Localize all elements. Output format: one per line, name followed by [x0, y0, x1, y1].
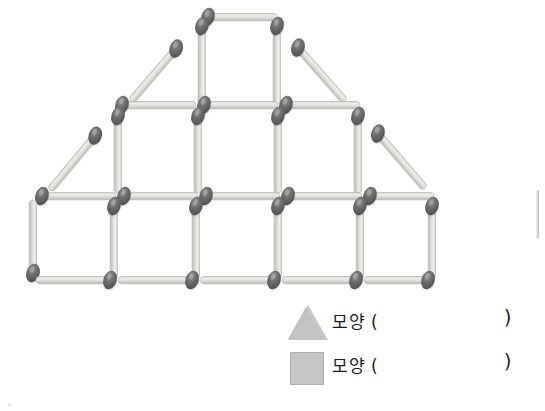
- legend: 모양 ( ) 모양 ( ): [288, 303, 538, 391]
- matchstick: [196, 185, 280, 208]
- matchstick: [104, 195, 124, 280]
- matches-layer: [23, 6, 442, 292]
- triangle-shape-swatch: [288, 305, 328, 341]
- matchstick: [361, 118, 434, 197]
- matchstick: [282, 32, 355, 110]
- scan-speck: [8, 403, 11, 406]
- legend-label-square: 모양 (: [332, 352, 378, 377]
- matchstick: [186, 195, 206, 280]
- matchstick: [188, 105, 208, 194]
- matchstick: [198, 6, 277, 29]
- scan-edge-artifact: [536, 190, 539, 238]
- matchstick: [32, 185, 116, 208]
- matchstick: [348, 105, 368, 194]
- matchstick: [124, 33, 192, 108]
- matchstick: [23, 200, 43, 286]
- matchstick: [108, 105, 128, 194]
- matchstick: [350, 195, 370, 280]
- matchstick: [194, 94, 278, 117]
- matchstick: [278, 185, 362, 208]
- matchstick: [200, 269, 284, 292]
- legend-row-triangle: 모양 ( ): [288, 303, 538, 347]
- square-shape-swatch: [288, 349, 328, 385]
- matchstick: [36, 269, 120, 292]
- matchstick: [192, 15, 212, 105]
- matchstick: [364, 269, 438, 292]
- matchstick: [43, 121, 111, 197]
- matchstick: [267, 15, 287, 105]
- legend-label-triangle: 모양 (: [332, 308, 378, 333]
- matchstick: [276, 94, 360, 117]
- matchstick: [268, 105, 288, 194]
- matchstick: [422, 195, 442, 280]
- matchstick: [114, 185, 198, 208]
- matchstick: [282, 269, 366, 292]
- matchstick-figure: [0, 0, 545, 300]
- worksheet-page: 모양 ( ) 모양 ( ): [0, 0, 545, 411]
- legend-row-square: 모양 ( ): [288, 347, 538, 391]
- matchstick: [118, 269, 202, 292]
- legend-close-paren-triangle: ): [504, 306, 511, 328]
- legend-close-paren-square: ): [504, 350, 511, 372]
- matchstick: [268, 195, 288, 280]
